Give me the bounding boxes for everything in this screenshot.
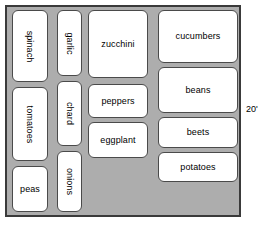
garden-bed-beets[interactable]: beets xyxy=(158,117,238,148)
garden-bed-label: zucchini xyxy=(101,40,134,49)
garden-bed-peas[interactable]: peas xyxy=(12,166,48,212)
garden-bed-label: potatoes xyxy=(180,163,215,172)
garden-bed-label: beans xyxy=(185,86,210,95)
garden-bed-potatoes[interactable]: potatoes xyxy=(158,152,238,182)
garden-bed-label: tomatoes xyxy=(26,105,35,143)
garden-bed-cucumbers[interactable]: cucumbers xyxy=(158,10,238,63)
garden-bed-spinach[interactable]: spinach xyxy=(12,10,48,82)
garden-plot-diagram: spinachtomatoespeasgarlicchardonionszucc… xyxy=(0,0,268,225)
garden-bed-zucchini[interactable]: zucchini xyxy=(88,10,148,78)
garden-bed-tomatoes[interactable]: tomatoes xyxy=(12,87,48,161)
garden-bed-peppers[interactable]: peppers xyxy=(88,84,148,118)
garden-bed-label: spinach xyxy=(25,30,34,62)
dimension-label-right: 20' xyxy=(246,104,258,114)
garden-bed-label: garlic xyxy=(65,32,74,54)
garden-bed-label: cucumbers xyxy=(176,32,221,41)
garden-bed-label: chard xyxy=(65,102,74,125)
garden-bed-eggplant[interactable]: eggplant xyxy=(88,122,148,158)
garden-bed-beans[interactable]: beans xyxy=(158,67,238,113)
garden-bed-label: onions xyxy=(65,168,74,195)
garden-bed-label: beets xyxy=(187,128,210,137)
garden-bed-label: peppers xyxy=(101,97,134,106)
garden-bed-garlic[interactable]: garlic xyxy=(57,10,82,76)
garden-bed-label: peas xyxy=(20,185,40,194)
garden-plot-frame: spinachtomatoespeasgarlicchardonionszucc… xyxy=(5,5,241,217)
garden-bed-label: eggplant xyxy=(100,136,135,145)
garden-bed-onions[interactable]: onions xyxy=(57,151,82,212)
garden-bed-chard[interactable]: chard xyxy=(57,81,82,146)
